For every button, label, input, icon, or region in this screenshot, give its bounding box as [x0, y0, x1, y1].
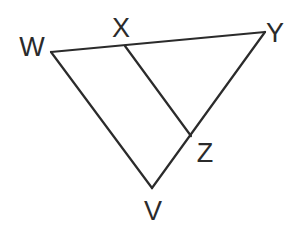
vertex-label-v: V [144, 196, 162, 226]
segment-xz [125, 46, 191, 136]
vertex-label-z: Z [197, 138, 214, 168]
triangle-figure: W X Y Z V [0, 0, 298, 235]
vertex-label-w: W [19, 32, 45, 62]
segment-wy [51, 32, 265, 52]
geometry-diagram: W X Y Z V [0, 0, 298, 235]
vertex-label-x: X [112, 13, 130, 43]
vertex-label-y: Y [266, 18, 284, 48]
segment-vw [51, 52, 152, 188]
